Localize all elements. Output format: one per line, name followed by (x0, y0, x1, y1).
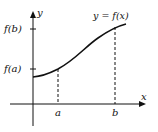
function-curve (33, 24, 126, 77)
fb-label: f(b) (3, 23, 22, 34)
y-axis-arrow-icon (30, 11, 36, 18)
b-label: b (112, 107, 118, 118)
x-axis-label: x (141, 91, 147, 102)
function-graph: y x f(b) f(a) a b y = f(x) (0, 0, 158, 132)
fa-label: f(a) (3, 63, 22, 74)
y-axis-label: y (36, 7, 43, 18)
a-label: a (55, 107, 61, 118)
curve-label: y = f(x) (92, 10, 129, 21)
